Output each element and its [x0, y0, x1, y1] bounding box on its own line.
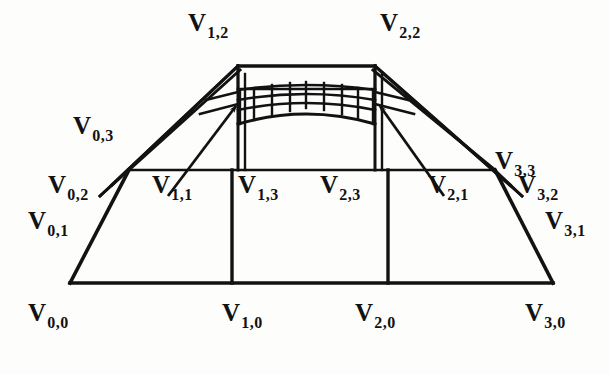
- vertex-label-v-3-3: V3,3: [495, 148, 535, 173]
- vertex-label-v-1-1: V1,1: [152, 172, 192, 197]
- figure-root: V0,0V0,1V0,2V0,3V1,0V1,1V1,2V1,3V2,0V2,1…: [0, 0, 610, 374]
- vertex-label-base: V: [355, 299, 373, 326]
- base-trapezoid: [70, 170, 553, 283]
- vertex-label-subscript: 1,1: [171, 186, 193, 203]
- vertex-label-v-2-0: V2,0: [355, 300, 395, 325]
- vertex-label-base: V: [152, 171, 170, 198]
- vertex-label-v-1-0: V1,0: [222, 300, 262, 325]
- vertex-label-v-3-1: V3,1: [545, 208, 585, 233]
- vertex-label-v-0-1: V0,1: [28, 208, 68, 233]
- vertex-label-subscript: 1,3: [257, 186, 279, 203]
- vertex-label-base: V: [525, 299, 543, 326]
- vertex-label-v-0-2: V0,2: [48, 172, 88, 197]
- vertex-label-v-2-3: V2,3: [320, 172, 360, 197]
- vertex-label-subscript: 3,3: [514, 162, 536, 179]
- leader-arrows: [168, 106, 444, 196]
- vertex-label-v-0-3: V0,3: [73, 113, 113, 138]
- vertex-label-subscript: 2,2: [399, 24, 421, 41]
- vertex-label-v-1-2: V1,2: [188, 10, 228, 35]
- vertex-label-base: V: [380, 9, 398, 36]
- vertex-label-subscript: 2,3: [339, 186, 361, 203]
- vertex-label-base: V: [545, 207, 563, 234]
- vertex-label-base: V: [238, 171, 256, 198]
- vertex-label-base: V: [188, 9, 206, 36]
- vertex-label-base: V: [28, 299, 46, 326]
- vertex-label-subscript: 3,2: [537, 186, 559, 203]
- vertex-label-v-2-2: V2,2: [380, 10, 420, 35]
- vertex-label-subscript: 0,0: [47, 314, 69, 331]
- vertex-label-subscript: 2,1: [447, 186, 469, 203]
- vertex-label-v-2-1: V2,1: [428, 172, 468, 197]
- vertex-label-v-0-0: V0,0: [28, 300, 68, 325]
- vertex-label-base: V: [320, 171, 338, 198]
- vertex-label-subscript: 3,1: [564, 222, 586, 239]
- vertex-label-base: V: [73, 112, 91, 139]
- vertex-label-base: V: [428, 171, 446, 198]
- vertex-label-subscript: 0,3: [92, 127, 114, 144]
- vertex-label-v-3-0: V3,0: [525, 300, 565, 325]
- vertex-label-subscript: 1,0: [241, 314, 263, 331]
- vertex-label-subscript: 1,2: [207, 24, 229, 41]
- vertex-label-base: V: [222, 299, 240, 326]
- vertex-label-subscript: 0,2: [67, 186, 89, 203]
- vertex-label-v-1-3: V1,3: [238, 172, 278, 197]
- vertex-label-base: V: [28, 207, 46, 234]
- vertex-label-subscript: 3,0: [544, 314, 566, 331]
- vertex-label-subscript: 0,1: [47, 222, 69, 239]
- vertex-label-base: V: [48, 171, 66, 198]
- vertex-label-base: V: [495, 147, 513, 174]
- vertex-label-subscript: 2,0: [374, 314, 396, 331]
